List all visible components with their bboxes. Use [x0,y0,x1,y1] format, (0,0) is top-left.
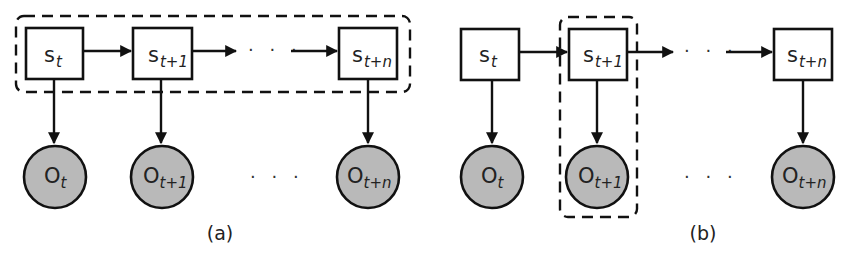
observation-node-t: Ot [24,146,86,208]
observation-node-t: Ot [461,146,523,208]
hmm-diagram: st st+1 st+n · · · Ot Ot+1 · · · [0,0,849,256]
ellipsis: · · · [250,166,304,187]
observation-node-t-plus-1: Ot+1 [131,146,193,208]
ellipsis: · · · [684,40,738,61]
panel-caption: (b) [690,222,717,244]
observation-node-t-plus-n: Ot+n [337,146,399,208]
state-node-t-plus-n: st+n [774,29,832,80]
panel-a: st st+1 st+n · · · Ot Ot+1 · · · [16,16,410,244]
observation-node-t-plus-1: Ot+1 [566,146,628,208]
state-node-t-plus-n: st+n [339,28,397,79]
state-node-t: st [26,28,83,79]
state-node-t: st [461,29,519,80]
panel-b: st st+1 st+n · · · Ot Ot+1 · · · Ot+n [461,17,834,244]
state-node-t-plus-1: st+1 [569,29,627,80]
state-node-t-plus-1: st+1 [133,28,192,79]
observation-node-t-plus-n: Ot+n [772,146,834,208]
ellipsis: · · · [684,166,738,187]
ellipsis: · · · [248,39,302,60]
panel-caption: (a) [207,222,233,244]
